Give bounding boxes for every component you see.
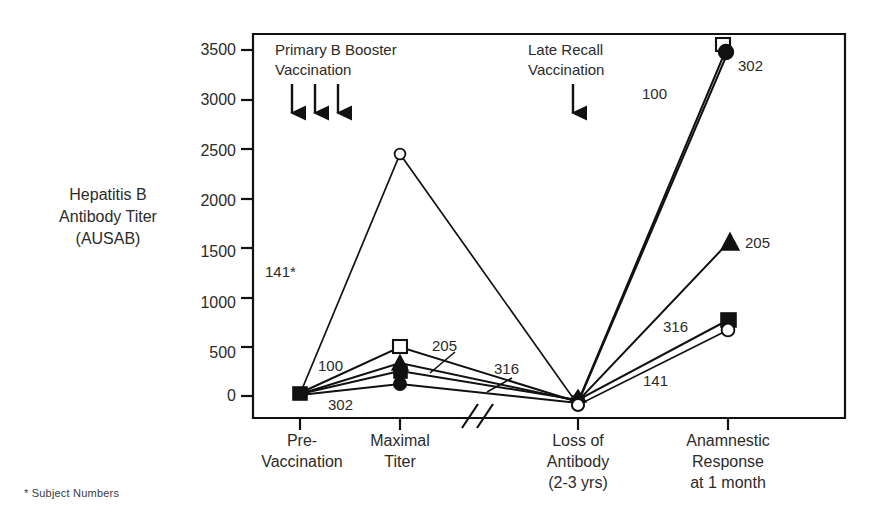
series-line-141	[300, 154, 728, 405]
x-axis-ticks	[300, 418, 728, 430]
marker-316-maximal-titer	[394, 366, 407, 378]
marker-100-maximal-titer	[393, 340, 407, 353]
plot-canvas	[0, 0, 879, 520]
marker-group-loss-of-antibody	[570, 390, 586, 411]
primary-booster-arrows-icon	[292, 84, 338, 113]
plot-frame	[253, 34, 845, 418]
marker-group-pre-vaccination	[293, 387, 307, 400]
chart-figure: Hepatitis B Antibody Titer (AUSAB) 3500 …	[0, 0, 879, 520]
y-axis-ticks	[241, 50, 253, 396]
marker-302-anamnestic-response	[719, 45, 734, 60]
marker-205-anamnestic-response	[721, 233, 739, 250]
axis-break-icon	[462, 404, 493, 428]
marker-141-anamnestic-response	[722, 324, 735, 337]
series-line-205	[300, 243, 728, 401]
series-line-100	[300, 45, 728, 402]
marker-141-maximal-titer	[395, 149, 406, 160]
marker-302-maximal-titer	[394, 378, 406, 390]
series-line-302	[300, 52, 728, 403]
